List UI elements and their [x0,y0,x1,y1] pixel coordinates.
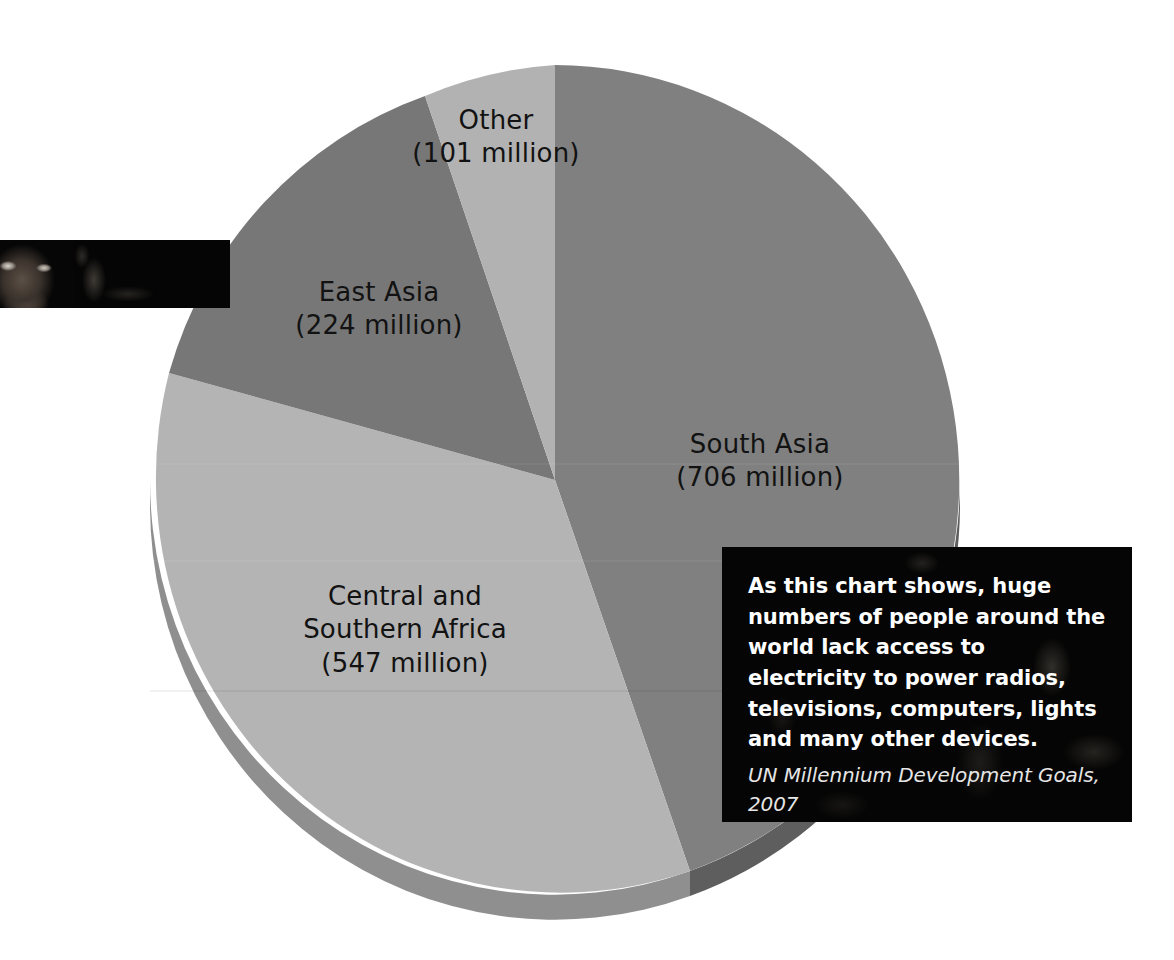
photo-strip-face [0,240,230,308]
callout-source-citation: UN Millennium Development Goals, 2007 [748,761,1106,819]
pie-label-south-asia: South Asia (706 million) [585,428,935,495]
pie-label-other: Other (101 million) [406,104,586,171]
pie-label-africa: Central and Southern Africa (547 million… [250,580,560,680]
quote-callout: As this chart shows, huge numbers of peo… [722,547,1132,822]
photo-face [0,240,74,308]
pie-label-east-asia: East Asia (224 million) [214,276,544,343]
callout-quote-text: As this chart shows, huge numbers of peo… [748,571,1106,755]
pie-chart-page: Other (101 million) East Asia (224 milli… [0,0,1174,960]
photo-flame [66,242,196,308]
